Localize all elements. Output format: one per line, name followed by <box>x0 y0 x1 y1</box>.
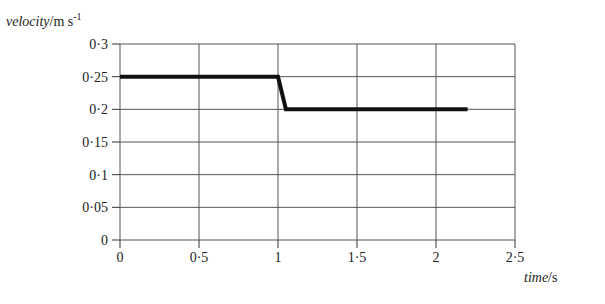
y-tick-label: 0·1 <box>89 168 108 183</box>
x-tick-label: 2 <box>433 250 440 265</box>
y-axis-title-exponent: -1 <box>73 11 81 22</box>
y-axis-title-quantity: velocity <box>6 14 50 29</box>
grid-lines <box>120 44 515 240</box>
y-axis-title: velocity/m s-1 <box>6 11 82 29</box>
y-tick-label: 0 <box>101 233 108 248</box>
data-series <box>120 77 468 110</box>
velocity-time-chart: 00·050·10·150·20·250·300·511·522·5 veloc… <box>0 0 605 304</box>
x-tick-label: 2·5 <box>506 250 525 265</box>
x-axis-title-quantity: time <box>524 270 548 285</box>
x-tick-label: 1 <box>275 250 282 265</box>
x-axis-title: time/s <box>524 270 557 285</box>
tick-labels: 00·050·10·150·20·250·300·511·522·5 <box>82 37 524 265</box>
x-tick-label: 0 <box>117 250 124 265</box>
y-tick-label: 0·05 <box>82 200 108 215</box>
x-axis-title-unit: /s <box>548 270 557 285</box>
axis-ticks <box>112 44 515 248</box>
velocity-line <box>120 77 468 110</box>
x-tick-label: 1·5 <box>348 250 367 265</box>
y-axis-title-unit: /m s <box>50 14 74 29</box>
y-tick-label: 0·25 <box>82 70 108 85</box>
y-tick-label: 0·3 <box>89 37 108 52</box>
y-tick-label: 0·2 <box>89 102 108 117</box>
x-tick-label: 0·5 <box>190 250 209 265</box>
y-tick-label: 0·15 <box>82 135 108 150</box>
